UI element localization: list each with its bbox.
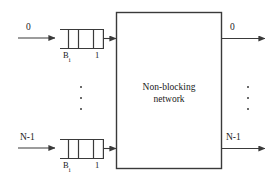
input-port-label-0: 0 — [26, 22, 31, 32]
output-port-label-n1: N-1 — [226, 132, 241, 142]
diagram-canvas: 0 Bi 1 N-1 Bi 1 Non-blockingnetwork 0 N-… — [0, 0, 280, 185]
dot — [247, 86, 249, 88]
dot — [80, 86, 82, 88]
input-buffer-label-0: Bi — [63, 50, 70, 64]
buffer-label-base: B — [63, 50, 69, 60]
input-ellipsis-dots — [79, 86, 83, 110]
output-port-label-0: 0 — [230, 22, 235, 32]
network-box-label-line2: network — [153, 94, 184, 104]
input-buffer-n1 — [60, 140, 104, 159]
network-box-label-line1: Non-blocking — [143, 82, 196, 92]
buffer-label-subscript: i — [69, 166, 71, 173]
buffer-label-subscript: i — [69, 56, 71, 63]
input-buffer-cell-label-0: 1 — [95, 50, 99, 60]
input-buffer-label-n1: Bi — [63, 160, 70, 174]
dot — [247, 97, 249, 99]
network-box-label: Non-blockingnetwork — [117, 82, 221, 105]
dot — [80, 108, 82, 110]
input-buffer-0 — [60, 30, 104, 49]
input-buffer-cell-label-n1: 1 — [95, 160, 99, 170]
buffer-label-base: B — [63, 160, 69, 170]
output-ellipsis-dots — [246, 86, 250, 110]
input-port-label-n1: N-1 — [20, 132, 35, 142]
dot — [80, 97, 82, 99]
dot — [247, 108, 249, 110]
